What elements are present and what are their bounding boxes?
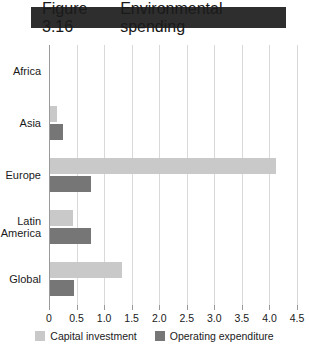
figure-title-banner: Figure 3.16 Environmental spending (31, 7, 286, 28)
tick-label-2.5: 2.5 (179, 312, 194, 324)
bar-global-operating-expenditure (50, 280, 74, 296)
tick-mark-4.5 (297, 305, 298, 310)
page-title: Environmental spending (120, 0, 286, 36)
tick-mark-0.5 (77, 305, 78, 310)
tick-label-1.5: 1.5 (124, 312, 139, 324)
gridline-3.0 (214, 45, 215, 305)
gridline-2.5 (187, 45, 188, 305)
tick-label-3.5: 3.5 (235, 312, 250, 324)
tick-label-4.0: 4.0 (262, 312, 277, 324)
tick-mark-2.0 (159, 305, 160, 310)
tick-mark-3.0 (214, 305, 215, 310)
chart-legend: Capital investmentOperating expenditure (0, 328, 309, 344)
tick-label-1.0: 1.0 (97, 312, 112, 324)
plot-area (49, 45, 297, 305)
tick-label-2.0: 2.0 (152, 312, 167, 324)
legend-swatch-operating-expenditure (155, 331, 165, 341)
gridline-4.5 (297, 45, 298, 305)
tick-mark-2.5 (187, 305, 188, 310)
legend-swatch-capital-investment (35, 331, 45, 341)
category-label-africa: Africa (0, 65, 45, 78)
tick-label-0.5: 0.5 (69, 312, 84, 324)
tick-mark-1.0 (104, 305, 105, 310)
legend-item-capital-investment[interactable]: Capital investment (35, 330, 136, 342)
bar-asia-operating-expenditure (50, 124, 63, 140)
tick-label-0: 0 (46, 312, 52, 324)
bar-europe-capital-investment (50, 158, 276, 174)
bar-global-capital-investment (50, 262, 122, 278)
figure-number: Figure 3.16 (42, 0, 120, 36)
category-label-asia: Asia (0, 117, 45, 130)
legend-label-capital-investment: Capital investment (50, 330, 136, 342)
legend-item-operating-expenditure[interactable]: Operating expenditure (155, 330, 274, 342)
tick-mark-3.5 (242, 305, 243, 310)
tick-label-4.5: 4.5 (290, 312, 305, 324)
category-label-europe: Europe (0, 169, 45, 182)
tick-mark-0 (49, 305, 50, 310)
gridline-3.5 (242, 45, 243, 305)
bar-latin-america-operating-expenditure (50, 228, 91, 244)
tick-label-3.0: 3.0 (207, 312, 222, 324)
gridline-4.0 (269, 45, 270, 305)
chart-container: AfricaAsiaEuropeLatinAmericaGlobal 00.51… (0, 40, 309, 344)
value-axis: 00.51.01.52.02.53.03.54.04.5 (49, 305, 297, 327)
bar-europe-operating-expenditure (50, 176, 91, 192)
gridline-1.5 (132, 45, 133, 305)
bar-asia-capital-investment (50, 106, 57, 122)
category-axis-labels: AfricaAsiaEuropeLatinAmericaGlobal (0, 45, 45, 305)
tick-mark-1.5 (132, 305, 133, 310)
legend-label-operating-expenditure: Operating expenditure (170, 330, 274, 342)
category-label-global: Global (0, 273, 45, 286)
tick-mark-4.0 (269, 305, 270, 310)
gridline-2.0 (159, 45, 160, 305)
bar-latin-america-capital-investment (50, 210, 73, 226)
category-label-latin-america: LatinAmerica (0, 215, 45, 240)
